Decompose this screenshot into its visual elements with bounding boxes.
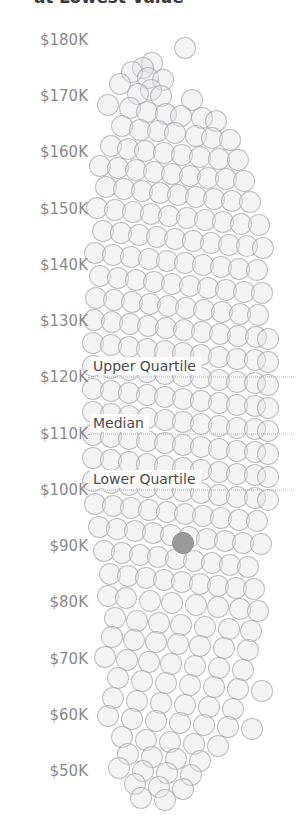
data-point[interactable] <box>94 646 116 668</box>
y-axis-tick-label: $130K <box>0 312 88 330</box>
data-point[interactable] <box>246 510 268 532</box>
data-point[interactable] <box>257 420 279 442</box>
data-point[interactable] <box>227 678 249 700</box>
data-point[interactable] <box>257 397 279 419</box>
reference-label-lower-quartile: Lower Quartile <box>90 470 201 488</box>
data-point[interactable] <box>185 594 207 616</box>
data-point[interactable] <box>251 282 273 304</box>
data-point[interactable] <box>257 328 279 350</box>
data-point[interactable] <box>257 466 279 488</box>
data-point[interactable] <box>161 592 183 614</box>
data-point[interactable] <box>164 122 186 144</box>
data-point[interactable] <box>252 237 274 259</box>
data-point[interactable] <box>207 596 229 618</box>
data-point[interactable] <box>174 37 196 59</box>
data-point[interactable] <box>246 259 268 281</box>
data-point[interactable] <box>179 674 201 696</box>
reference-label-upper-quartile: Upper Quartile <box>90 357 201 375</box>
dot-field <box>0 0 302 823</box>
data-point[interactable] <box>167 633 189 655</box>
data-point[interactable] <box>251 680 273 702</box>
data-point[interactable] <box>239 191 261 213</box>
data-point[interactable] <box>243 578 265 600</box>
data-point[interactable] <box>257 351 279 373</box>
data-point[interactable] <box>241 718 263 740</box>
y-axis-tick-label: $60K <box>0 706 88 724</box>
y-axis-tick-label: $180K <box>0 31 88 49</box>
data-point[interactable] <box>248 214 270 236</box>
y-axis-tick-label: $140K <box>0 256 88 274</box>
plot-area: Upper QuartileMedianLower Quartile $180K… <box>0 0 302 823</box>
data-point[interactable] <box>237 556 259 578</box>
y-axis-tick-label: $80K <box>0 593 88 611</box>
data-point[interactable] <box>237 639 259 661</box>
y-axis-tick-label: $90K <box>0 537 88 555</box>
data-point[interactable] <box>154 789 176 811</box>
data-point[interactable] <box>247 600 269 622</box>
data-point[interactable] <box>97 705 119 727</box>
y-axis-tick-label: $50K <box>0 762 88 780</box>
data-point[interactable] <box>115 587 137 609</box>
data-point[interactable] <box>107 667 129 689</box>
reference-line-lower-quartile <box>88 489 294 490</box>
y-axis-tick-label: $70K <box>0 650 88 668</box>
data-point[interactable] <box>139 590 161 612</box>
dot-plot-chart: at Lowest Value Upper QuartileMedianLowe… <box>0 0 302 823</box>
y-axis-tick-label: $160K <box>0 143 88 161</box>
data-point[interactable] <box>97 94 119 116</box>
data-point[interactable] <box>101 626 123 648</box>
reference-line-upper-quartile <box>88 377 294 378</box>
data-point[interactable] <box>257 443 279 465</box>
y-axis-tick-label: $110K <box>0 425 88 443</box>
y-axis-tick-label: $150K <box>0 200 88 218</box>
y-axis-tick-label: $100K <box>0 481 88 499</box>
data-point[interactable] <box>203 676 225 698</box>
data-point[interactable] <box>213 637 235 659</box>
data-point[interactable] <box>189 635 211 657</box>
data-point[interactable] <box>227 149 249 171</box>
data-point[interactable] <box>145 631 167 653</box>
reference-label-median: Median <box>90 414 149 432</box>
data-point[interactable] <box>207 735 229 757</box>
data-point[interactable] <box>247 304 269 326</box>
data-point[interactable] <box>233 170 255 192</box>
y-axis-tick-label: $170K <box>0 87 88 105</box>
data-point[interactable] <box>257 489 279 511</box>
data-point[interactable] <box>155 672 177 694</box>
data-point[interactable] <box>130 787 152 809</box>
data-point[interactable] <box>123 629 145 651</box>
data-point[interactable] <box>131 670 153 692</box>
reference-line-median <box>88 433 294 434</box>
data-point[interactable] <box>250 533 272 555</box>
y-axis-tick-label: $120K <box>0 368 88 386</box>
